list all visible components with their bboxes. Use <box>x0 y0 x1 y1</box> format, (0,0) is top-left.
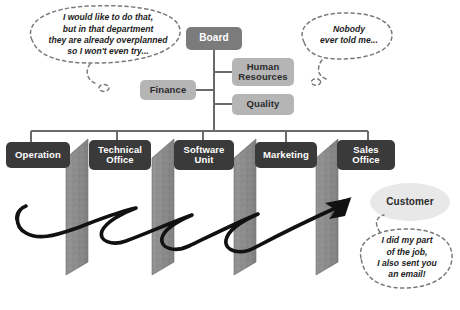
node-operation[interactable]: Operation <box>6 142 70 168</box>
node-quality[interactable]: Quality <box>232 94 294 115</box>
node-finance[interactable]: Finance <box>140 80 196 100</box>
node-quality-label: Quality <box>247 99 280 109</box>
node-human-resources[interactable]: Human Resources <box>232 58 294 86</box>
node-customer-label: Customer <box>386 197 433 208</box>
node-finance-label: Finance <box>150 85 187 95</box>
diagram-canvas: Board Finance Human Resources Quality Op… <box>0 0 460 310</box>
silo-wall <box>152 139 174 275</box>
node-customer[interactable]: Customer <box>370 183 450 221</box>
node-operation-label-line1: Operation <box>15 150 61 160</box>
node-software-unit-label-line2: Unit <box>195 155 214 165</box>
node-sales-office-label-line2: Office <box>352 155 380 165</box>
silo-wall <box>234 139 256 275</box>
org-connector-lines <box>31 50 368 142</box>
node-board-label: Board <box>199 33 228 44</box>
node-technical-office-label-line2: Office <box>106 155 134 165</box>
node-sales-office[interactable]: Sales Office <box>337 140 395 170</box>
node-software-unit[interactable]: Software Unit <box>174 140 234 170</box>
node-human-resources-label-line2: Resources <box>238 72 287 82</box>
node-marketing[interactable]: Marketing <box>255 142 317 168</box>
node-marketing-label-line1: Marketing <box>263 150 309 160</box>
node-board[interactable]: Board <box>186 27 242 50</box>
node-technical-office[interactable]: Technical Office <box>89 140 151 170</box>
